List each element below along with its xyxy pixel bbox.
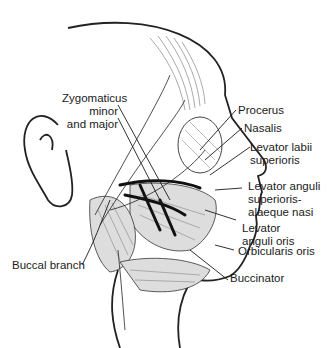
label-buccal-branch: Buccal branch <box>12 259 85 272</box>
label-line: alaeque nasi <box>248 206 320 219</box>
head-illustration <box>0 0 330 348</box>
label-zygomaticus: Zygomaticus minor and major <box>62 92 118 131</box>
label-line: Levator anguli <box>248 180 320 193</box>
label-buccinator: Buccinator <box>230 272 284 285</box>
label-levator-anguli-superioris: Levator anguli superioris- alaeque nasi <box>248 180 320 219</box>
label-line: minor <box>62 105 118 118</box>
label-orbicularis-oris: Orbicularis oris <box>238 245 315 258</box>
label-line: and major <box>62 118 118 131</box>
label-line: superioris- <box>248 193 320 206</box>
label-levator-labii: Levator labii superioris <box>250 141 312 167</box>
label-procerus: Procerus <box>238 104 284 117</box>
label-line: Levator <box>242 222 294 235</box>
neck-front <box>112 270 120 348</box>
label-line: superioris <box>250 154 312 167</box>
label-line: Levator labii <box>250 141 312 154</box>
label-line: Zygomaticus <box>62 92 118 105</box>
label-nasalis: Nasalis <box>244 122 282 135</box>
